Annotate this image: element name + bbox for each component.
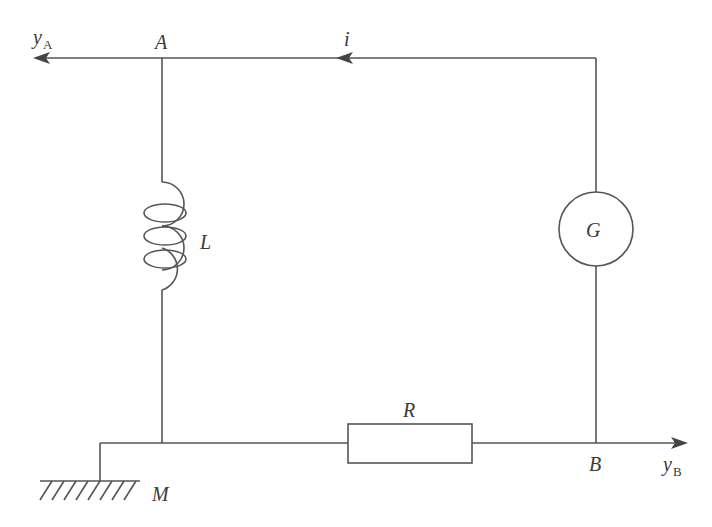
node-label-b: B — [589, 454, 601, 474]
ground-label-m: M — [152, 484, 169, 504]
resistor-symbol — [348, 424, 472, 463]
inductor-label: L — [200, 232, 211, 252]
output-label-yA: yA — [33, 27, 51, 47]
generator-label: G — [586, 220, 600, 240]
circuit-diagram — [0, 0, 712, 527]
inductor-symbol — [144, 182, 186, 290]
node-label-a: A — [155, 32, 167, 52]
current-label: i — [344, 29, 350, 49]
ground-hatch — [40, 481, 136, 500]
resistor-label: R — [403, 400, 415, 420]
output-label-yB: yB — [663, 454, 681, 474]
